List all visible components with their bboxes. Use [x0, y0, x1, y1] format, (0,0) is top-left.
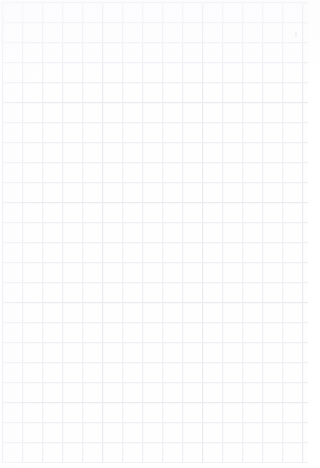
grid-paper-page: Blank grid paper [0, 0, 320, 468]
grid-lines [2, 2, 308, 463]
